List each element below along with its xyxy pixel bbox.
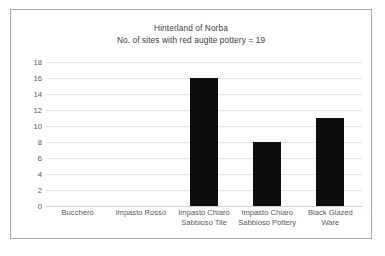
chart-title: Hinterland of Norba [11, 22, 371, 34]
y-tick-label-14: 14 [34, 90, 42, 99]
gridline-0 [46, 206, 362, 207]
bar-slot [172, 62, 235, 206]
x-tick-label: Impasto Chiaro Sabbioso Tile [172, 208, 235, 228]
chart-subtitle: No. of sites with red augite pottery = 1… [11, 34, 371, 46]
chart-frame: Hinterland of Norba No. of sites with re… [10, 9, 372, 239]
x-tick-label: Impasto Chiaro Sabbioso Pottery [236, 208, 299, 228]
bar-slot [299, 62, 362, 206]
bar [190, 78, 218, 206]
y-tick-label-4: 4 [38, 170, 42, 179]
y-axis-tick-labels: 024681012141618 [11, 62, 42, 206]
y-tick-label-12: 12 [34, 106, 42, 115]
bar-series [46, 62, 362, 206]
y-tick-label-6: 6 [38, 154, 42, 163]
bar [316, 118, 344, 206]
x-axis-tick-labels: BuccheroImpasto RossoImpasto Chiaro Sabb… [46, 208, 362, 238]
bar-slot [236, 62, 299, 206]
x-tick-label: Bucchero [46, 208, 109, 218]
y-tick-label-0: 0 [38, 202, 42, 211]
y-tick-label-10: 10 [34, 122, 42, 131]
y-tick-label-16: 16 [34, 74, 42, 83]
y-tick-label-2: 2 [38, 186, 42, 195]
x-tick-label: Black Glazed Ware [299, 208, 362, 228]
bar-slot [46, 62, 109, 206]
bar [253, 142, 281, 206]
y-tick-label-18: 18 [34, 58, 42, 67]
bar-slot [109, 62, 172, 206]
chart-title-block: Hinterland of Norba No. of sites with re… [11, 22, 371, 46]
y-tick-label-8: 8 [38, 138, 42, 147]
x-tick-label: Impasto Rosso [109, 208, 172, 218]
